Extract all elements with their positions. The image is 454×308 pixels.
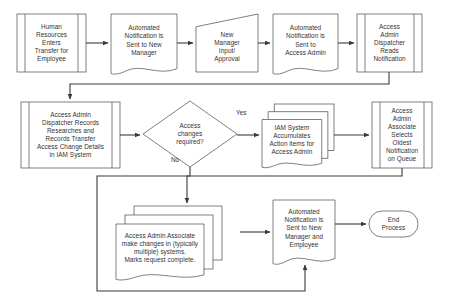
edge-n9-n10 xyxy=(187,168,402,203)
shape-n11 xyxy=(273,200,335,264)
edge-label-no: No xyxy=(171,156,179,164)
shape-n9 xyxy=(372,102,432,168)
shape-n2 xyxy=(111,14,177,74)
shape-n5 xyxy=(357,14,422,72)
shape-n8-front xyxy=(262,120,322,168)
flowchart-canvas: Human Resources Enters Transfer for Empl… xyxy=(0,0,454,308)
shape-n6 xyxy=(21,102,120,168)
node-shapes xyxy=(17,14,432,280)
shape-n4 xyxy=(273,14,338,74)
shape-n7 xyxy=(143,101,237,167)
edge-label-yes: Yes xyxy=(236,109,246,117)
flowchart-graphics xyxy=(0,0,454,308)
shape-n12 xyxy=(369,211,418,237)
edge-n5-n6 xyxy=(70,72,389,99)
shape-n3 xyxy=(196,14,258,72)
shape-n10-front xyxy=(116,224,204,280)
shape-n1 xyxy=(17,14,86,72)
